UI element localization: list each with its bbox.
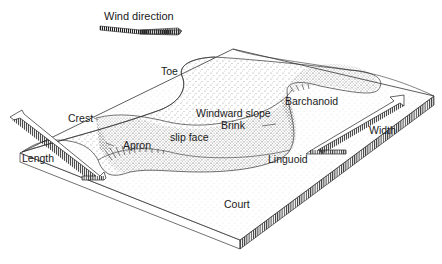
label-wind-direction: Wind direction <box>104 11 174 22</box>
label-windward-slope: Windward slope <box>196 108 271 119</box>
label-slip-face: slip face <box>170 132 209 143</box>
label-length: Length <box>22 153 54 164</box>
label-crest: Crest <box>68 113 93 124</box>
dune-diagram: Wind direction Toe Crest Windward slope … <box>0 0 442 264</box>
label-toe: Toe <box>161 66 178 77</box>
wind-arrow-icon <box>100 26 182 35</box>
label-court: Court <box>224 199 250 210</box>
label-width: Width <box>369 125 396 136</box>
label-barchanoid: Barchanoid <box>285 96 338 107</box>
label-linguoid: Linguoid <box>268 154 308 165</box>
label-apron: Apron <box>123 140 151 151</box>
label-brink: Brink <box>221 120 245 131</box>
